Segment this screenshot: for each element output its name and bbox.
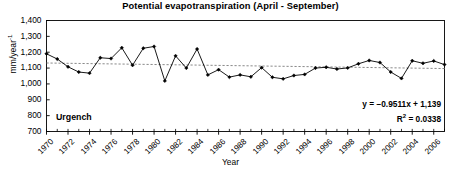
data-point-markers: [45, 45, 446, 83]
y-tick-label: 1,400: [12, 15, 42, 25]
x-major-ticks: [47, 132, 434, 135]
y-tick-label: 1,300: [12, 31, 42, 41]
data-series-line: [47, 47, 445, 81]
y-tick-label: 1,200: [12, 47, 42, 57]
chart-figure: Potential evapotranspiration (April - Se…: [0, 0, 461, 173]
y-tick-label: 700: [12, 126, 42, 136]
y-major-ticks: [47, 21, 50, 132]
y-tick-label: 1,000: [12, 78, 42, 88]
y-tick-label: 1,100: [12, 62, 42, 72]
y-tick-label: 800: [12, 110, 42, 120]
trendline: [47, 63, 445, 69]
y-tick-label: 900: [12, 94, 42, 104]
